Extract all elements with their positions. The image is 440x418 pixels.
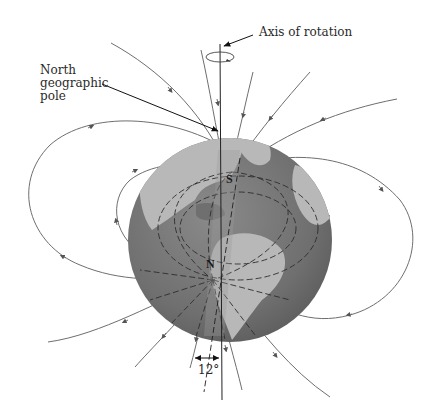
tilt-angle-indicator	[195, 355, 219, 361]
axis-of-rotation-label: Axis of rotation	[259, 26, 352, 39]
tilt-angle-label: 12°	[198, 364, 219, 377]
axis-label-pointer	[224, 35, 253, 46]
pole-label-line-3: pole	[40, 90, 109, 103]
magnetic-field-diagram: Axis of rotation North geographic pole S…	[0, 0, 440, 418]
earth-globe	[128, 130, 332, 342]
magnetic-north-pole-label: N	[206, 257, 215, 272]
magnetic-south-pole-label: S	[226, 172, 233, 187]
north-geographic-pole-label: North geographic pole	[40, 64, 109, 103]
